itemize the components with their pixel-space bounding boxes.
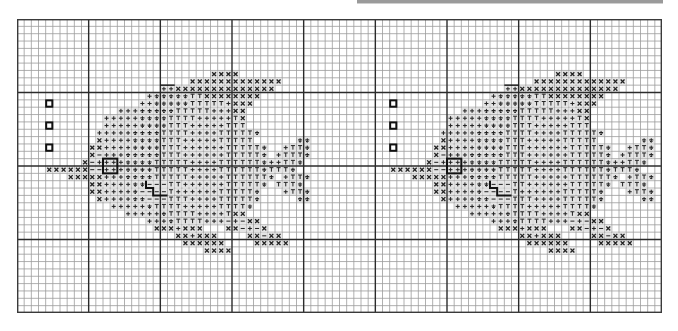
center-marker-square [46, 122, 52, 128]
stitch-pattern-chart [17, 19, 662, 313]
stitch-symbols [46, 71, 654, 254]
center-marker-square [46, 144, 52, 150]
center-marker-square [390, 122, 396, 128]
pattern-grid [17, 19, 662, 313]
center-marker-square [390, 144, 396, 150]
center-marker-square [46, 100, 52, 106]
top-scrollbar-strip [357, 0, 663, 4]
center-marker-square [390, 100, 396, 106]
